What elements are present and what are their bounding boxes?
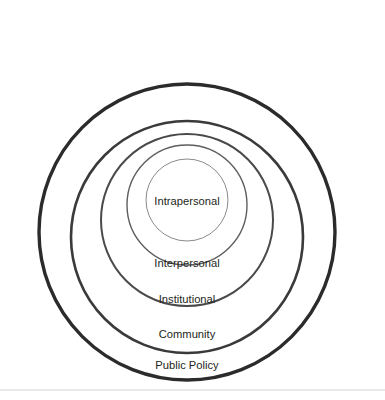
ring-circle-institutional <box>101 134 273 306</box>
concentric-circles-svg: Intrapersonal Interpersonal Institutiona… <box>0 0 385 400</box>
ring-label-public-policy: Public Policy <box>155 359 219 371</box>
ecological-model-diagram: Intrapersonal Interpersonal Institutiona… <box>0 0 385 400</box>
ring-circle-community <box>71 121 303 353</box>
ring-label-institutional: Institutional <box>159 293 216 305</box>
ring-label-interpersonal: Interpersonal <box>154 257 219 269</box>
ring-label-community: Community <box>159 328 216 340</box>
ring-label-intrapersonal: Intrapersonal <box>154 195 219 207</box>
